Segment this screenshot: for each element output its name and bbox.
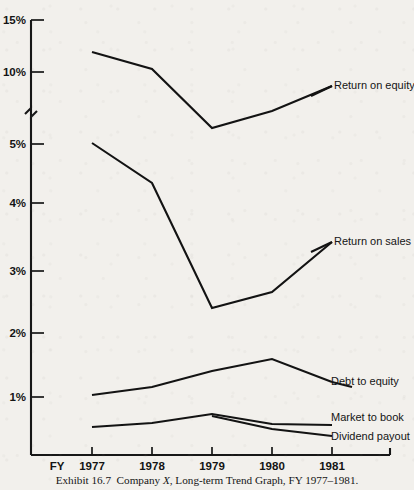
- y-tick-marks: [31, 20, 44, 397]
- series-label-debt-to-equity: Debt to equity: [331, 375, 399, 387]
- x-tick-label-1979: 1979: [199, 460, 225, 472]
- y-tick-label-5: 5%: [9, 138, 26, 150]
- x-axis: [31, 447, 390, 455]
- dividend-payout-line: [212, 416, 332, 436]
- y-tick-label-3: 3%: [9, 265, 26, 277]
- y-axis: [25, 20, 37, 455]
- x-tick-label-1980: 1980: [259, 460, 285, 472]
- chart-svg: 15% 10% 5% 4% 3% 2% 1% FY 1977 1978 1979…: [0, 0, 414, 490]
- x-axis-prefix-label: FY: [50, 460, 65, 472]
- series-label-return-on-equity: Return on equity: [334, 79, 414, 91]
- caption-text: Exhibit 16.7 Company X, Long-term Trend …: [56, 474, 359, 486]
- series-debt-to-equity: Debt to equity: [92, 359, 399, 395]
- series-label-market-to-book: Market to book: [331, 411, 404, 423]
- y-tick-label-4: 4%: [9, 197, 26, 209]
- y-tick-label-10: 10%: [3, 66, 26, 78]
- market-to-book-line: [92, 414, 332, 427]
- x-tick-label-1981: 1981: [319, 460, 345, 472]
- return-on-sales-line: [92, 143, 332, 308]
- y-tick-label-15: 15%: [3, 14, 26, 26]
- y-tick-labels: 15% 10% 5% 4% 3% 2% 1%: [3, 14, 26, 403]
- return-on-equity-leader: [311, 86, 332, 96]
- x-tick-label-1977: 1977: [79, 460, 105, 472]
- x-tick-labels: FY 1977 1978 1979 1980 1981: [50, 460, 346, 472]
- debt-to-equity-line: [92, 359, 332, 395]
- series-label-return-on-sales: Return on sales: [334, 235, 412, 247]
- caption-exhibit-number: Exhibit 16.7: [56, 474, 112, 486]
- y-tick-label-1: 1%: [9, 391, 26, 403]
- return-on-equity-line: [92, 52, 332, 128]
- figure-caption: Exhibit 16.7 Company X, Long-term Trend …: [56, 474, 359, 486]
- series-label-dividend-payout: Dividend payout: [331, 430, 410, 442]
- series-return-on-sales: Return on sales: [92, 143, 412, 308]
- trend-graph-figure: 15% 10% 5% 4% 3% 2% 1% FY 1977 1978 1979…: [0, 0, 414, 490]
- axis-break-icon: [25, 108, 37, 117]
- caption-company-word: Company: [117, 474, 161, 486]
- caption-remainder: , Long-term Trend Graph, FY 1977–1981.: [170, 474, 359, 486]
- x-tick-label-1978: 1978: [139, 460, 165, 472]
- y-tick-label-2: 2%: [9, 327, 26, 339]
- series-return-on-equity: Return on equity: [92, 52, 414, 128]
